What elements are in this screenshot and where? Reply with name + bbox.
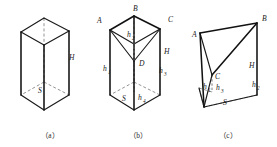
- panel-b-vertex-label-C: C: [168, 15, 174, 24]
- panel-b-vertex-label-B: B: [133, 4, 138, 13]
- panel-a-prism: H S: [21, 18, 75, 110]
- svg-text:3: 3: [164, 71, 167, 77]
- panel-b-height-label-h3: h 3: [159, 66, 167, 77]
- panel-c-base-area-label-S: S: [223, 98, 227, 107]
- geometry-figure-container: H S: [0, 0, 277, 147]
- panel-b-vertex-label-D: D: [138, 59, 145, 68]
- panel-a-base-area-label-S: S: [38, 86, 42, 95]
- panel-c-height-label-H: H: [248, 61, 255, 70]
- svg-text:2: 2: [257, 85, 260, 91]
- panel-a-height-label-H: H: [68, 53, 75, 62]
- svg-text:2: 2: [132, 35, 135, 41]
- svg-text:3: 3: [221, 88, 224, 94]
- panel-b-height-label-H: H: [163, 47, 170, 56]
- svg-text:h: h: [252, 80, 256, 89]
- svg-text:1: 1: [208, 87, 211, 93]
- svg-text:4: 4: [143, 98, 146, 104]
- caption-panel-a: （a）: [41, 131, 58, 140]
- caption-panel-c: （c）: [219, 131, 236, 140]
- svg-text:h: h: [203, 82, 207, 91]
- panel-c-prism: A B C H S h 1 h 3 h 2: [191, 14, 267, 107]
- svg-text:h: h: [159, 66, 163, 75]
- panel-b-vertex-label-A: A: [96, 16, 102, 25]
- svg-text:h: h: [138, 93, 142, 102]
- panel-c-vertex-label-A: A: [191, 30, 197, 39]
- caption-panel-b: （b）: [129, 131, 147, 140]
- svg-text:h: h: [103, 64, 107, 73]
- panel-b-base-area-label-S: S: [122, 94, 126, 103]
- prism-diagram-svg: H S: [0, 0, 277, 147]
- panel-b-prism: A B C D H S h 1 h 2 h 3 h 4: [96, 4, 174, 110]
- panel-c-vertex-label-B: B: [262, 14, 267, 23]
- svg-text:h: h: [127, 30, 131, 39]
- svg-text:h: h: [216, 83, 220, 92]
- svg-text:1: 1: [108, 69, 111, 75]
